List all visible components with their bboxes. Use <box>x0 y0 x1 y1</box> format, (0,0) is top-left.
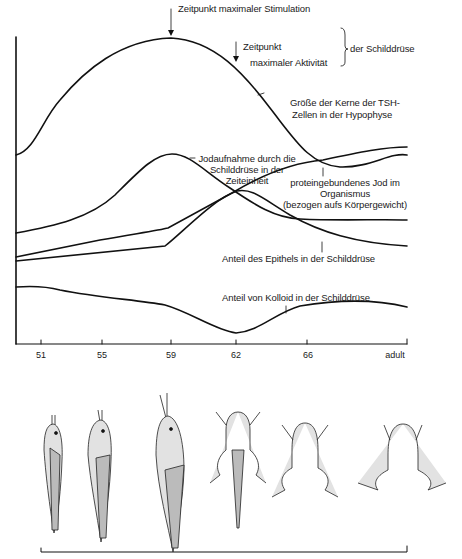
chart-canvas <box>0 0 462 559</box>
metamorph-62-icon <box>210 412 266 528</box>
tadpole-59-icon <box>156 393 184 552</box>
x-tick-51: 51 <box>36 350 46 360</box>
x-ticks <box>41 339 407 344</box>
label-tsh-line2: Zellen in der Hypophyse <box>292 109 392 120</box>
label-max-stimulation: Zeitpunkt maximaler Stimulation <box>178 3 310 14</box>
froglet-66-icon <box>272 423 338 497</box>
development-illustration <box>44 393 446 552</box>
label-max-activity-line1: Zeitpunkt <box>243 41 281 52</box>
tadpole-51-icon <box>44 415 62 533</box>
label-tsh-line1: Größe der Kerne der TSH- <box>290 97 400 108</box>
label-epithel: Anteil des Epithels in der Schilddrüse <box>222 253 375 264</box>
label-iodine-line1: Jodaufnahme durch die <box>197 153 297 164</box>
label-pbi-line3: (bezogen aufs Körpergewicht) <box>280 199 410 210</box>
label-iodine-line2: Schilddrüse in der <box>197 164 297 175</box>
x-tick-59: 59 <box>166 350 176 360</box>
adult-frog-icon <box>358 424 446 490</box>
label-pbi-line2: Organismus <box>280 188 410 199</box>
tadpole-55-icon <box>88 410 111 542</box>
x-tick-62: 62 <box>231 350 241 360</box>
x-tick-55: 55 <box>97 350 107 360</box>
x-tick-adult: adult <box>385 350 405 360</box>
label-max-activity-line2: maximaler Aktivität <box>250 57 327 68</box>
stage-bracket <box>41 546 407 552</box>
x-tick-66: 66 <box>303 350 313 360</box>
label-colloid: Anteil von Kolloid in der Schilddrüse <box>222 292 370 303</box>
label-pbi-line1: proteingebundenes Jod im <box>280 177 410 188</box>
label-thyroid: der Schilddrüse <box>350 43 415 54</box>
